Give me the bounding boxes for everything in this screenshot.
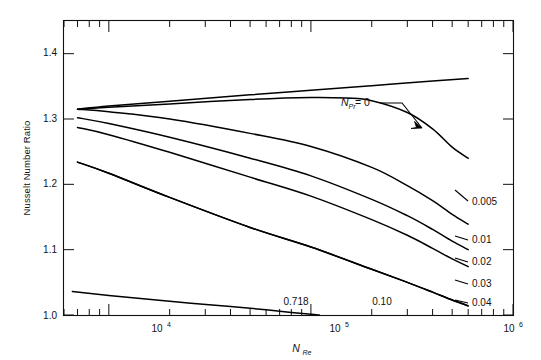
x-tick-label-1e4-base: 10: [151, 323, 163, 334]
x-tick-label-1e6-exponent: 6: [519, 321, 523, 328]
y-tick-label-1-2: 1.2: [43, 178, 57, 189]
curve-label-0-01: 0.01: [472, 234, 492, 245]
x-tick-label-1e5-base: 10: [329, 323, 341, 334]
curve-label-0-10: 0.10: [372, 296, 392, 307]
curve-label-0-04: 0.04: [472, 297, 492, 308]
x-axis-title-subscript: Re: [302, 349, 311, 356]
x-tick-label-1e4-exponent: 4: [167, 321, 171, 328]
nusselt-number-ratio-chart: 1.0 1.1 1.2 1.3 1.4 10 4 10 5 10 6 Nusse…: [0, 0, 541, 360]
chart-figure: 1.0 1.1 1.2 1.3 1.4 10 4 10 5 10 6 Nusse…: [0, 0, 541, 360]
x-axis-title-base: N: [292, 342, 300, 354]
curve-label-0-005: 0.005: [472, 196, 497, 207]
y-tick-label-1-1: 1.1: [43, 244, 57, 255]
curve-label-0-03: 0.03: [472, 278, 492, 289]
curve-label-0-02: 0.02: [472, 256, 492, 267]
y-tick-label-1-3: 1.3: [43, 113, 57, 124]
chart-background: [0, 0, 541, 360]
curve-label-0-718: 0.718: [283, 296, 308, 307]
x-tick-label-1e5-exponent: 5: [345, 321, 349, 328]
annotation-npr-tail: = 0: [355, 96, 370, 108]
y-tick-label-1-0: 1.0: [43, 310, 57, 321]
x-tick-label-1e6-base: 10: [503, 323, 515, 334]
y-axis-title: Nusselt Number Ratio: [21, 121, 32, 216]
y-tick-label-1-4: 1.4: [43, 47, 57, 58]
